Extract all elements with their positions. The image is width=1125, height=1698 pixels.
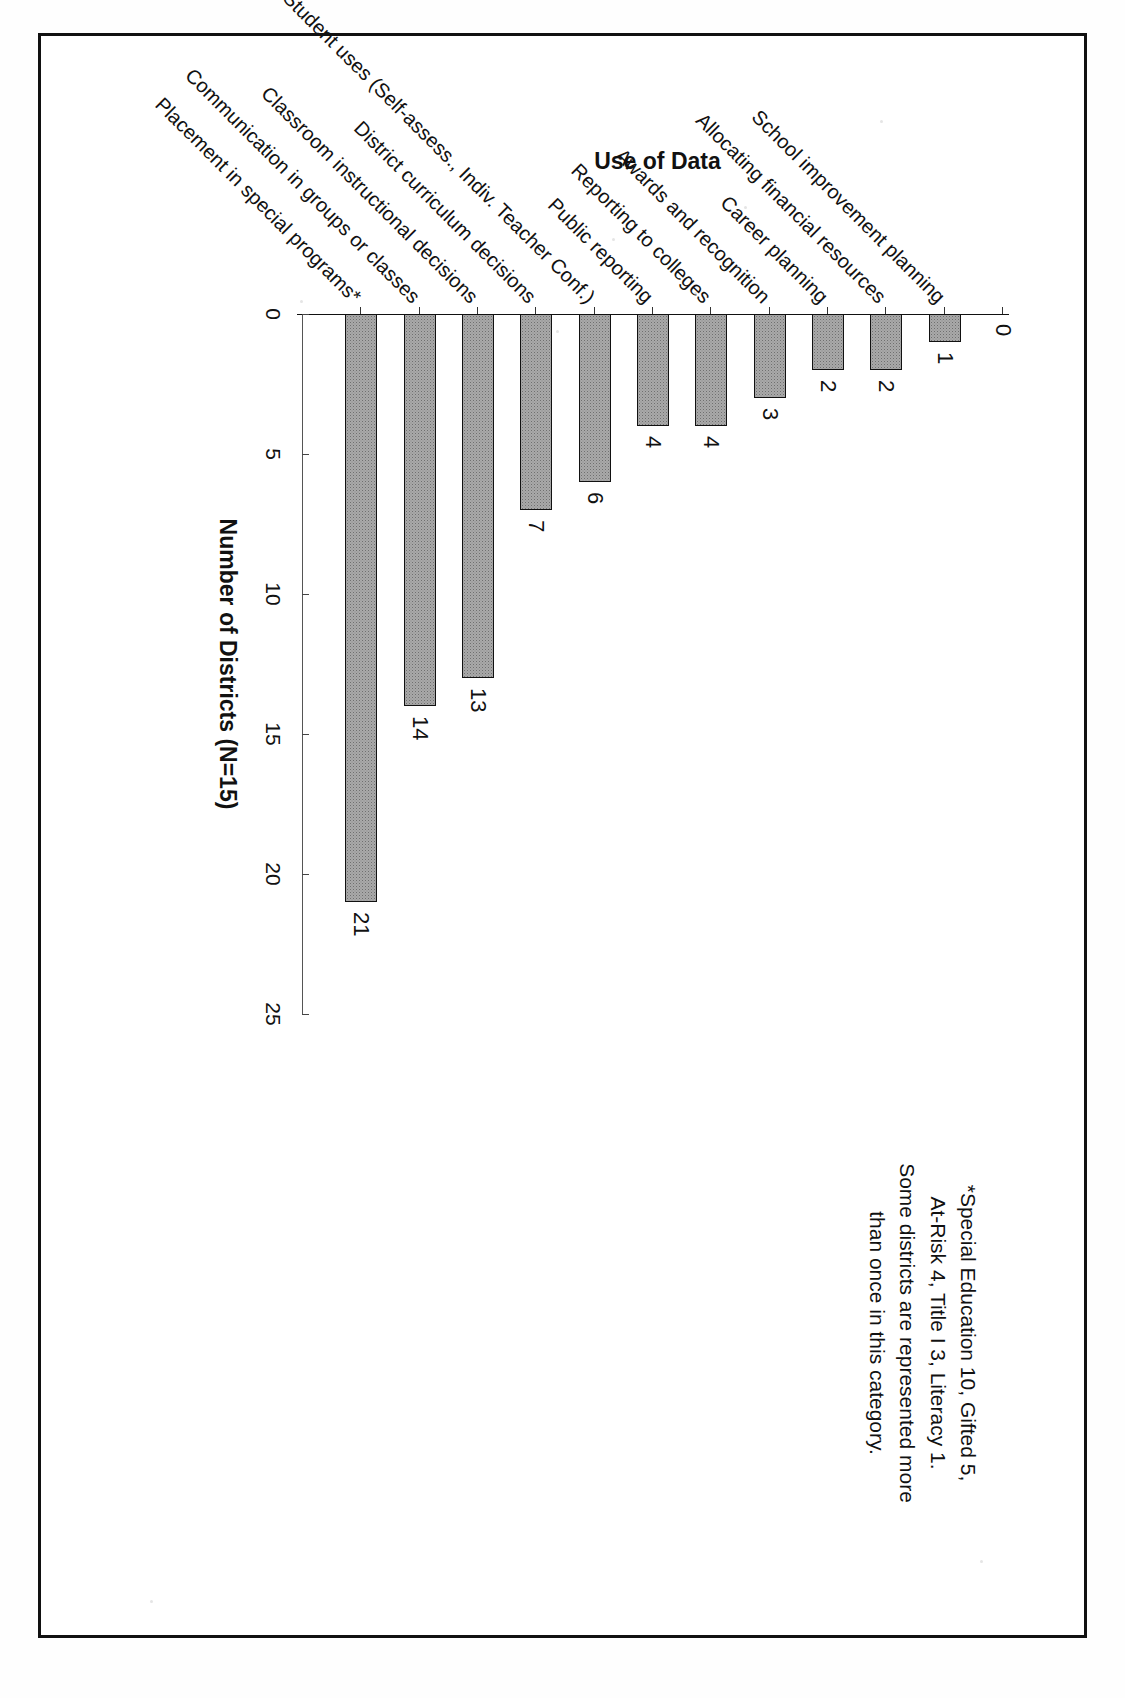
rotated-figure-wrapper: Number of Districts (N=15) Use of Data 2… [63,71,1063,1601]
category-tick [418,307,419,314]
bar-chart-figure: Number of Districts (N=15) Use of Data 2… [63,71,1063,1601]
category-tick [768,307,769,314]
scan-speckle [694,292,697,295]
category-tick [885,307,886,314]
scan-speckle [612,238,615,241]
scanned-page: Number of Districts (N=15) Use of Data 2… [0,0,1125,1698]
page-border-frame: Number of Districts (N=15) Use of Data 2… [38,33,1087,1638]
value-axis-title: Number of Districts (N=15) [214,314,241,1014]
value-tick-label: 20 [261,862,285,885]
footnote-line: than once in this category. [861,1143,891,1523]
footnote-line: Some districts are represented more [891,1143,921,1523]
value-tick-label: 0 [261,308,285,320]
footnote: *Special Education 10, Gifted 5,At-Risk … [861,1143,983,1523]
footnote-line: At-Risk 4, Title I 3, Literacy 1. [922,1143,952,1523]
plot-area: 2520151050 211413764432210 Placement in … [303,314,1003,1014]
value-tick-label: 5 [261,448,285,460]
footnote-line: *Special Education 10, Gifted 5, [952,1143,982,1523]
category-tick [360,307,361,314]
category-tick [652,307,653,314]
category-tick [477,307,478,314]
category-labels-group: Placement in special programs*Communicat… [303,314,1003,1014]
scan-speckle [556,330,559,333]
category-tick [593,307,594,314]
category-label: Placement in special programs* [0,0,365,308]
category-tick [943,307,944,314]
scan-speckle [300,300,303,303]
category-tick [1002,307,1003,314]
category-tick [827,307,828,314]
value-tick-label: 10 [261,582,285,605]
scan-speckle [744,206,747,209]
scan-speckle [150,1600,153,1603]
scan-speckle [880,120,883,123]
value-tick-label: 25 [261,1002,285,1025]
category-tick [535,307,536,314]
value-tick-label: 15 [261,722,285,745]
scan-speckle [980,1560,983,1563]
category-tick [710,307,711,314]
